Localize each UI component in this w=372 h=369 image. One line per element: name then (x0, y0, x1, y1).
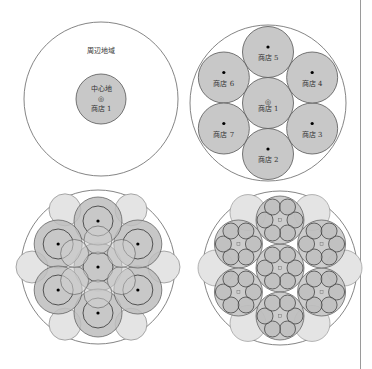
sub-store-circle (280, 225, 296, 241)
sub-store-circle (238, 249, 254, 265)
store-dot-icon (222, 71, 225, 74)
panel-3-overlapping-stores (16, 190, 180, 344)
store-2-circle (243, 129, 294, 180)
sub-store-circle (321, 223, 337, 239)
store-2-label: 商店 2 (258, 155, 279, 164)
store-dot-icon (136, 288, 139, 291)
sub-store-circle (280, 273, 296, 289)
store-dot-icon (266, 147, 269, 150)
store-dot-icon (311, 122, 314, 125)
store-dot-icon (136, 242, 139, 245)
sub-store-circle (321, 297, 337, 313)
store-6-circle (198, 52, 249, 103)
center-marker-icon: ◎ (98, 95, 104, 103)
store-dot-icon (311, 71, 314, 74)
store-5-circle (243, 27, 294, 78)
sub-store-circle (223, 271, 239, 287)
store-dot-icon (96, 311, 99, 314)
store-dot-icon (96, 219, 99, 222)
sub-store-circle (265, 295, 281, 311)
sub-store-circle (223, 223, 239, 239)
sub-store-circle (321, 271, 337, 287)
overlap-circle (61, 267, 89, 295)
store-1-label: 商店 1 (258, 104, 279, 113)
store-3-circle (287, 103, 338, 154)
store-4-label: 商店 4 (302, 79, 323, 88)
sub-store-circle (280, 199, 296, 215)
sub-store-circle (238, 271, 254, 287)
store-1-label: 商店 1 (91, 104, 112, 113)
store-dot-icon (96, 265, 99, 268)
sub-store-circle (306, 223, 322, 239)
sub-store-circle (280, 321, 296, 337)
store-3-label: 商店 3 (302, 130, 323, 139)
sub-store-circle (306, 271, 322, 287)
sub-store-circle (280, 247, 296, 263)
sub-store-circle (238, 297, 254, 313)
store-dot-icon (266, 45, 269, 48)
central-place-diagram: 周辺地域 中心地 ◎ 商店 1 ◎商店 1商店 2商店 3商店 4商店 5商店 … (0, 0, 372, 369)
sub-store-circle (280, 295, 296, 311)
store-7-label: 商店 7 (213, 130, 234, 139)
panel-4-dense-overlapping-stores (198, 191, 362, 345)
store-4-circle (287, 52, 338, 103)
surrounding-area-label: 周辺地域 (87, 46, 115, 55)
panel-2-seven-stores: ◎商店 1商店 2商店 3商店 4商店 5商店 6商店 7 (190, 25, 346, 181)
store-6-label: 商店 6 (213, 79, 234, 88)
sub-store-circle (265, 199, 281, 215)
store-7-circle (198, 103, 249, 154)
store-dot-icon (57, 288, 60, 291)
store-dot-icon (57, 242, 60, 245)
sub-store-circle (265, 247, 281, 263)
sub-store-circle (238, 223, 254, 239)
panel-1-single-center: 周辺地域 中心地 ◎ 商店 1 (24, 22, 178, 176)
sub-store-circle (321, 249, 337, 265)
center-label: 中心地 (91, 84, 112, 93)
store-dot-icon (222, 122, 225, 125)
store-5-label: 商店 5 (258, 53, 279, 62)
overlap-circle (61, 240, 89, 268)
